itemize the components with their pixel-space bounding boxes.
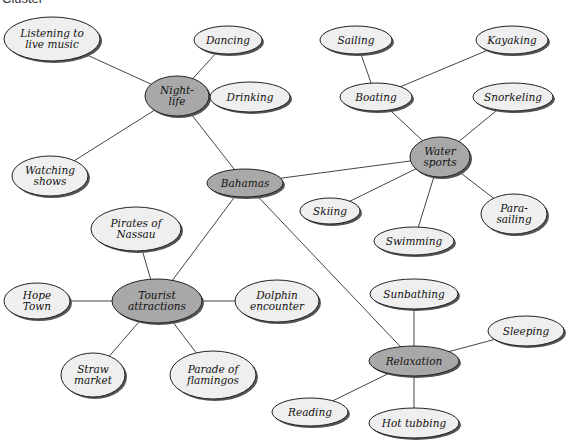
node-snorkeling: Snorkeling	[473, 83, 555, 113]
node-pirates: Pirates ofNassau	[91, 207, 183, 253]
node-sunbathing: Sunbathing	[370, 279, 460, 311]
node-label: Dancing	[205, 34, 250, 46]
nodes-layer: Listening tolive musicDancingNight-lifeD…	[4, 17, 566, 440]
node-label: attractions	[128, 300, 187, 312]
cluster-diagram: Listening tolive musicDancingNight-lifeD…	[0, 0, 575, 447]
node-parasailing: Para-sailing	[481, 194, 549, 236]
node-label: Hot tubbing	[381, 417, 447, 429]
node-label: Nassau	[115, 228, 155, 240]
node-watching: Watchingshows	[12, 156, 90, 198]
node-label: flamingos	[186, 374, 239, 386]
node-label: Sailing	[337, 34, 374, 46]
node-label: sailing	[496, 213, 531, 225]
node-label: Relaxation	[385, 355, 443, 367]
node-drinking: Drinking	[210, 82, 292, 114]
node-label: encounter	[250, 300, 305, 312]
node-watersports: Watersports	[410, 137, 472, 179]
node-label: live music	[25, 38, 79, 50]
node-label: life	[169, 95, 186, 107]
node-sailing: Sailing	[320, 26, 394, 56]
node-label: Sunbathing	[383, 288, 445, 300]
node-tourist: Touristattractions	[112, 279, 204, 325]
node-label: Reading	[287, 406, 332, 418]
node-listening: Listening tolive music	[4, 17, 102, 63]
node-label: Sleeping	[503, 325, 550, 337]
node-hottubbing: Hot tubbing	[369, 408, 461, 440]
node-nightlife: Night-life	[145, 76, 211, 118]
node-reading: Reading	[272, 398, 350, 428]
node-dancing: Dancing	[194, 26, 264, 56]
node-label: Swimming	[386, 235, 443, 247]
node-skiing: Skiing	[300, 198, 362, 226]
node-label: shows	[34, 175, 67, 187]
node-parade: Parade offlamingos	[170, 351, 258, 401]
node-label: Kayaking	[486, 34, 537, 46]
node-boating: Boating	[340, 83, 414, 113]
node-kayaking: Kayaking	[476, 26, 550, 56]
node-hopetown: HopeTown	[4, 283, 72, 321]
node-bahamas: Bahamas	[207, 169, 285, 199]
node-sleeping: Sleeping	[488, 316, 566, 348]
node-relaxation: Relaxation	[369, 346, 461, 378]
node-label: Boating	[354, 91, 397, 103]
node-label: market	[74, 374, 113, 386]
node-label: Bahamas	[220, 177, 270, 189]
node-label: Town	[23, 300, 51, 312]
node-label: Drinking	[226, 91, 274, 103]
node-label: Skiing	[313, 205, 347, 217]
node-label: Snorkeling	[484, 91, 542, 103]
node-label: sports	[423, 156, 457, 168]
node-swimming: Swimming	[374, 227, 456, 257]
node-dolphin: Dolphinencounter	[235, 280, 321, 324]
node-straw: Strawmarket	[61, 353, 127, 399]
